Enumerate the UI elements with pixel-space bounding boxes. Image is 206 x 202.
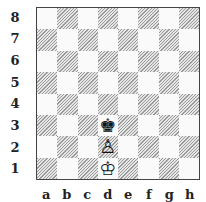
square-b2	[57, 136, 77, 157]
square-d1: ♔	[98, 158, 118, 179]
rank-label-2: 2	[8, 140, 22, 155]
rank-label-4: 4	[8, 96, 22, 111]
square-h7	[179, 29, 199, 50]
square-h8	[179, 8, 199, 29]
chess-board: ♚♙♔	[36, 7, 200, 180]
file-label-g: g	[159, 187, 179, 202]
square-h3	[179, 115, 199, 136]
square-d8	[98, 8, 118, 29]
square-b7	[57, 29, 77, 50]
square-e7	[118, 29, 138, 50]
square-h1	[179, 158, 199, 179]
square-e4	[118, 94, 138, 115]
square-c8	[78, 8, 98, 29]
square-b6	[57, 51, 77, 72]
square-c4	[78, 94, 98, 115]
white-pawn-icon: ♙	[99, 137, 116, 156]
square-e1	[118, 158, 138, 179]
square-a5	[37, 72, 57, 93]
square-b4	[57, 94, 77, 115]
square-f7	[138, 29, 158, 50]
file-label-h: h	[180, 187, 200, 202]
square-h6	[179, 51, 199, 72]
square-e6	[118, 51, 138, 72]
square-e2	[118, 136, 138, 157]
rank-label-7: 7	[8, 31, 22, 46]
square-c1	[78, 158, 98, 179]
square-b8	[57, 8, 77, 29]
square-e8	[118, 8, 138, 29]
file-label-a: a	[36, 187, 56, 202]
square-d3: ♚	[98, 115, 118, 136]
square-c3	[78, 115, 98, 136]
square-c7	[78, 29, 98, 50]
square-g3	[159, 115, 179, 136]
rank-label-5: 5	[8, 75, 22, 90]
square-d2: ♙	[98, 136, 118, 157]
square-e5	[118, 72, 138, 93]
square-g6	[159, 51, 179, 72]
square-f2	[138, 136, 158, 157]
square-e3	[118, 115, 138, 136]
file-label-c: c	[77, 187, 97, 202]
rank-label-3: 3	[8, 118, 22, 133]
square-g2	[159, 136, 179, 157]
square-f5	[138, 72, 158, 93]
square-a8	[37, 8, 57, 29]
square-h5	[179, 72, 199, 93]
rank-label-8: 8	[8, 10, 22, 25]
square-c2	[78, 136, 98, 157]
square-a1	[37, 158, 57, 179]
square-g4	[159, 94, 179, 115]
square-f8	[138, 8, 158, 29]
file-label-e: e	[118, 187, 138, 202]
square-a6	[37, 51, 57, 72]
square-h2	[179, 136, 199, 157]
file-label-b: b	[57, 187, 77, 202]
square-f4	[138, 94, 158, 115]
square-c6	[78, 51, 98, 72]
square-a7	[37, 29, 57, 50]
square-a2	[37, 136, 57, 157]
square-b5	[57, 72, 77, 93]
square-d5	[98, 72, 118, 93]
file-label-f: f	[139, 187, 159, 202]
square-g8	[159, 8, 179, 29]
square-f1	[138, 158, 158, 179]
square-c5	[78, 72, 98, 93]
square-b3	[57, 115, 77, 136]
square-f6	[138, 51, 158, 72]
white-king-icon: ♔	[99, 159, 116, 178]
black-king-icon: ♚	[99, 116, 116, 135]
square-a4	[37, 94, 57, 115]
square-f3	[138, 115, 158, 136]
rank-label-6: 6	[8, 53, 22, 68]
square-d4	[98, 94, 118, 115]
file-label-d: d	[98, 187, 118, 202]
square-h4	[179, 94, 199, 115]
square-g7	[159, 29, 179, 50]
square-b1	[57, 158, 77, 179]
rank-label-1: 1	[8, 161, 22, 176]
square-d7	[98, 29, 118, 50]
square-a3	[37, 115, 57, 136]
square-d6	[98, 51, 118, 72]
square-g5	[159, 72, 179, 93]
square-g1	[159, 158, 179, 179]
